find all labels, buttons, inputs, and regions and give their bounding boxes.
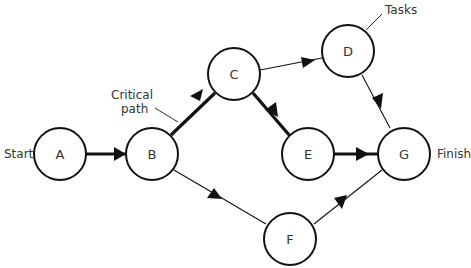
start-label: Start [4,147,34,161]
node-label: A [56,147,65,162]
node-b: B [126,128,178,180]
node-c: C [208,48,260,100]
edge-b-c [171,93,215,135]
node-label: G [399,147,409,162]
node-e: E [282,128,334,180]
node-label: D [343,44,353,59]
critical-path-label-line2: path [121,102,148,116]
finish-label: Finish [437,147,471,161]
arrow-head-icon [301,57,315,68]
node-label: E [304,147,312,162]
arrow-head-icon [207,188,222,199]
node-label: B [148,147,157,162]
edge-f-g [314,170,382,224]
critical-path-label-line1: Critical [111,88,153,102]
arrow-head-icon [372,93,383,109]
node-label: F [286,232,293,247]
edge-c-e [253,93,290,136]
node-a: A [34,128,86,180]
arrow-head-icon [190,89,203,101]
node-d: D [322,25,374,77]
arrow-head-icon [356,147,369,161]
network-diagram: A B C D E F G Start Finish Tasks Critica… [0,0,471,268]
tasks-label: Tasks [384,3,417,17]
arrow-head-icon [114,147,126,161]
tasks-leader-line [366,14,382,30]
node-g: G [378,128,430,180]
node-f: F [264,213,316,265]
node-label: C [229,67,238,82]
critical-path-leader-line [155,108,178,122]
